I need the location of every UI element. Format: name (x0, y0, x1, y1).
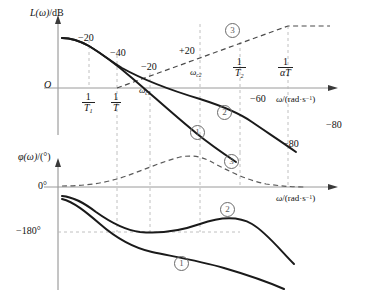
corner-tick-1-over-T1: 1T1 (82, 92, 95, 114)
magnitude-curve-3 (117, 26, 330, 88)
phase-tick-0deg: 0° (38, 181, 47, 191)
omega-c2-label: ωc2 (190, 68, 202, 78)
corner-tick-1-over-T2: 1T2 (233, 57, 246, 79)
phase-y-axis-label: φ(ω)/(°) (18, 152, 51, 162)
phase-curve-3 (62, 156, 306, 187)
corner-tick-1-over-T: 1T (111, 92, 121, 113)
slope-label-minus20-b: −20 (141, 62, 157, 72)
slope-label-minus80-a: −80 (326, 120, 342, 130)
omega-c1-label: ωc1 (139, 86, 151, 96)
phase-axes (44, 158, 338, 290)
phase-curve-2 (62, 196, 294, 264)
slope-label-minus40: −40 (110, 48, 126, 58)
magnitude-x-axis-label: ω/(rad·s−1) (276, 95, 315, 104)
magnitude-curve-tag-3: 3 (225, 23, 240, 38)
magnitude-curve-tag-1: 1 (190, 125, 205, 140)
slope-label-plus20: +20 (179, 46, 195, 56)
bode-plot-figure: L(ω)/dB O ω/(rad·s−1) −20 −40 −20 +20 −6… (0, 0, 367, 297)
corner-tick-1-over-alphaT: 1αT (278, 57, 293, 78)
phase-tick-minus180deg: −180° (16, 226, 41, 236)
slope-label-minus20-a: −20 (78, 33, 94, 43)
phase-curve-tag-2: 2 (220, 202, 235, 217)
phase-curve-tag-1: 1 (174, 256, 189, 271)
phase-gridlines (58, 152, 288, 232)
phase-curve-tag-3: 3 (224, 154, 239, 169)
slope-label-minus60: −60 (250, 94, 266, 104)
magnitude-y-axis-label: L(ω)/dB (30, 8, 64, 18)
phase-x-axis-label: ω/(rad·s−1) (276, 194, 315, 203)
magnitude-curve-tag-2: 2 (217, 105, 232, 120)
magnitude-origin-label: O (44, 80, 51, 90)
slope-label-minus80-b: −80 (283, 139, 299, 149)
